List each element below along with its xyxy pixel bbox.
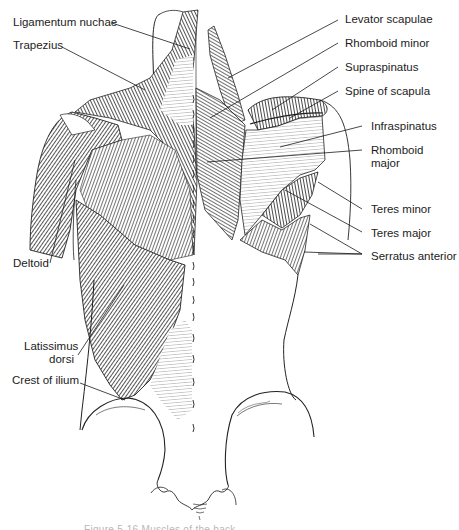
label-latissimus-line2: dorsi xyxy=(24,353,74,366)
anatomy-figure: Ligamentum nuchae Trapezius Deltoid Lati… xyxy=(0,0,459,530)
coccyx xyxy=(193,504,207,520)
label-infraspinatus: Infraspinatus xyxy=(371,120,437,133)
label-spine-of-scapula: Spine of scapula xyxy=(345,85,430,98)
figure-caption: Figure 5-16 Muscles of the back xyxy=(84,524,236,530)
label-ligamentum-nuchae: Ligamentum nuchae xyxy=(13,16,117,29)
label-latissimus-line1: Latissimus xyxy=(24,340,74,353)
label-levator-scapulae: Levator scapulae xyxy=(345,13,433,26)
label-teres-major: Teres major xyxy=(371,227,431,240)
label-crest-of-ilium: Crest of ilium xyxy=(12,374,79,387)
sacrum-outline xyxy=(157,480,228,510)
back-muscles-illustration xyxy=(0,0,459,530)
label-supraspinatus: Supraspinatus xyxy=(345,61,419,74)
label-rhomboid-major-line1: Rhomboid xyxy=(371,144,423,157)
label-deltoid: Deltoid xyxy=(13,257,49,270)
label-rhomboid-major-line2: major xyxy=(371,157,400,170)
label-rhomboid-minor: Rhomboid minor xyxy=(345,37,429,50)
label-trapezius: Trapezius xyxy=(13,39,63,52)
right-iliac-crest xyxy=(225,392,314,485)
label-teres-minor: Teres minor xyxy=(371,203,431,216)
label-serratus-anterior: Serratus anterior xyxy=(371,250,457,263)
left-iliac-crest xyxy=(82,398,165,480)
